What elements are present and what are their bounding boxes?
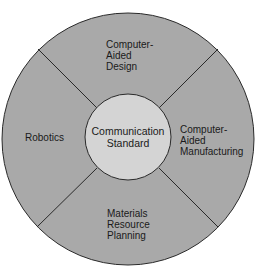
segment-label-line: Aided [180, 135, 243, 146]
segment-label-line: Resource [107, 219, 150, 230]
center-communication-standard: Communication Standard [83, 125, 173, 149]
segment-label-line: Manufacturing [180, 146, 243, 157]
segment-label-line: Computer- [106, 39, 153, 50]
segment-label-line: Planning [107, 230, 150, 241]
segment-label-line: Materials [107, 208, 150, 219]
segment-label-line: Computer- [180, 124, 243, 135]
segment-robotics: Robotics [25, 132, 64, 143]
segment-label-line: Aided [106, 50, 153, 61]
segment-computer-aided-design: Computer- Aided Design [106, 39, 153, 72]
segment-label-line: Robotics [25, 132, 64, 143]
segment-computer-aided-manufacturing: Computer- Aided Manufacturing [180, 124, 243, 157]
center-label-line: Standard [83, 137, 173, 149]
segment-label-line: Design [106, 61, 153, 72]
segment-materials-resource-planning: Materials Resource Planning [107, 208, 150, 241]
center-label-line: Communication [83, 125, 173, 137]
